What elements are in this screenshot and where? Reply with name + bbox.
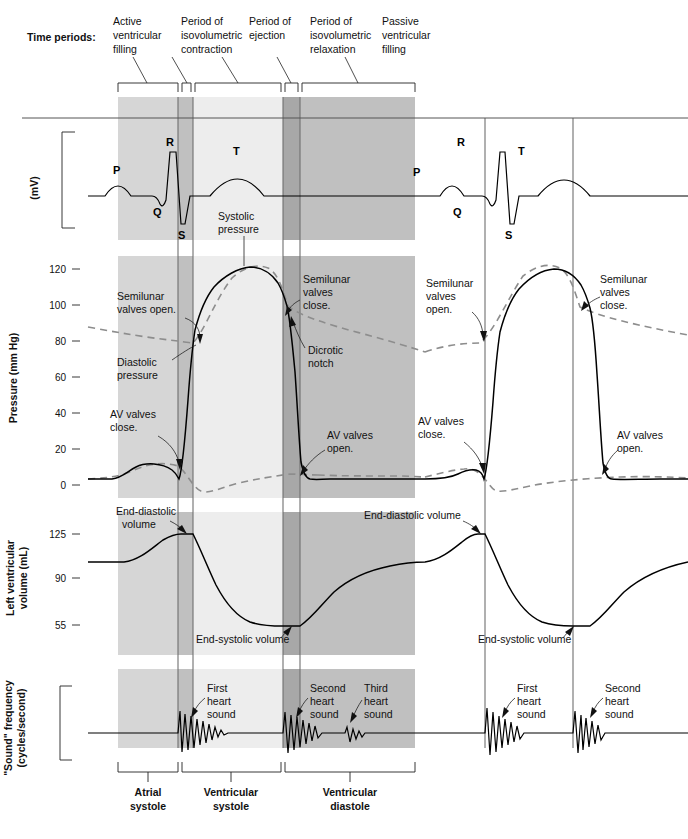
esv2-line0: End-systolic volume	[478, 633, 572, 645]
s2a-line0: Second	[310, 682, 346, 694]
annotation-semilunar-open-2: Semilunar valves open.	[426, 277, 487, 342]
diast-line1: pressure	[117, 369, 158, 381]
ecg-label-r1: R	[166, 136, 174, 148]
volume-tick-90: 90	[55, 573, 67, 584]
ecg-label-s1: S	[178, 229, 185, 241]
tp1-line1: isovolumetric	[181, 29, 242, 41]
slo2-line0: Semilunar	[426, 277, 474, 289]
volume-axis-label-line0: Left ventricularvolume (mL)	[4, 540, 29, 616]
slc2-line2: close.	[600, 299, 627, 311]
ecg-label-p2: P	[413, 166, 420, 178]
volume-ticks: 125 90 55	[49, 529, 80, 631]
ecg-axis-bracket	[62, 132, 75, 228]
sound-axis-bracket	[60, 686, 72, 760]
tp3-line1: isovolumetric	[310, 29, 371, 41]
ecg-label-t2: T	[518, 145, 525, 157]
annotation-s1-b: First heart sound	[502, 682, 546, 720]
s2b-line0: Second	[605, 682, 641, 694]
tp2-line1: ejection	[249, 29, 285, 41]
volume-tick-125: 125	[49, 529, 66, 540]
phase-bracket-label-0: Atrial systole	[130, 786, 166, 812]
pressure-tick-120: 120	[49, 264, 66, 275]
s3a-line1: heart	[364, 695, 388, 707]
time-period-label-3: Period of isovolumetric relaxation	[310, 15, 371, 55]
annotation-av-open-2: AV valves open.	[602, 429, 663, 475]
annotation-esv-2: End-systolic volume	[478, 626, 574, 645]
pressure-ticks: 120 100 80 60 40 20 0	[49, 264, 80, 491]
ecg-axis-label: (mV)	[28, 176, 40, 199]
s2a-line1: heart	[310, 695, 334, 707]
dicrotic-line1: notch	[308, 357, 334, 369]
edv2-line0: End-diastolic volume	[364, 509, 461, 521]
phase-bands	[110, 97, 425, 748]
systolic-pressure-line0: Systolic	[218, 210, 254, 222]
slc1-line2: close.	[303, 299, 330, 311]
tp0-line2: filling	[113, 43, 137, 55]
ecg-label-r2: R	[457, 136, 465, 148]
time-period-label-0: Active ventricular filling	[113, 15, 162, 55]
pressure-tick-0: 0	[60, 480, 66, 491]
s1b-line1: heart	[517, 695, 541, 707]
s1b-line2: sound	[517, 708, 546, 720]
tp1-line0: Period of	[181, 15, 223, 27]
time-periods-section: Time periods: Active ventricular filling…	[27, 15, 431, 92]
wiggers-diagram: Time periods: Active ventricular filling…	[0, 0, 688, 839]
tp2-line0: Period of	[249, 15, 291, 27]
tp4-line2: filling	[382, 43, 406, 55]
slc1-line0: Semilunar	[303, 273, 351, 285]
phase-bracket-label-1: Ventricular systole	[204, 786, 258, 812]
annotation-s2-b: Second heart sound	[590, 682, 641, 720]
slc2-line1: valves	[600, 286, 630, 298]
figure-svg: Time periods: Active ventricular filling…	[0, 0, 688, 839]
slc1-line1: valves	[303, 286, 333, 298]
atrial-pressure-dashed-2	[425, 469, 688, 491]
tp0-line0: Active	[113, 15, 142, 27]
tp4-line0: Passive	[382, 15, 419, 27]
annotation-semilunar-close-2: Semilunar valves close.	[581, 273, 648, 311]
phase-brackets: Atrial systole Ventricular systole Ventr…	[118, 762, 415, 812]
pb0-line0: Atrial	[135, 786, 162, 798]
time-period-label-2: Period of ejection	[249, 15, 291, 41]
avo1-line1: open.	[327, 442, 353, 454]
avc2-line1: close.	[418, 428, 445, 440]
pb0-line1: systole	[130, 800, 166, 812]
pressure-tick-40: 40	[55, 408, 67, 419]
s1a-line1: heart	[207, 695, 231, 707]
pressure-tick-100: 100	[49, 300, 66, 311]
time-period-label-1: Period of isovolumetric contraction	[181, 15, 242, 55]
avo1-line0: AV valves	[327, 429, 373, 441]
sound-axis-label: "Sound" frequency(cycles/second)	[2, 680, 27, 776]
avo2-line1: open.	[617, 442, 643, 454]
s3a-line0: Third	[364, 682, 388, 694]
esv1-line0: End-systolic volume	[196, 633, 290, 645]
edv1-line0: End-diastolic	[116, 505, 176, 517]
pb2-line0: Ventricular	[323, 786, 377, 798]
ecg-label-t1: T	[233, 145, 240, 157]
ecg-label-p1: P	[113, 164, 120, 176]
time-periods-label: Time periods:	[27, 31, 96, 43]
s1a-line2: sound	[207, 708, 236, 720]
pressure-tick-80: 80	[55, 336, 67, 347]
edv1-line1: volume	[122, 518, 156, 530]
avo2-line0: AV valves	[617, 429, 663, 441]
sl-open1-line1: valves open.	[117, 303, 176, 315]
ecg-label-q2: Q	[453, 206, 462, 218]
pressure-tick-20: 20	[55, 444, 67, 455]
pressure-axis-label: Pressure (mm Hg)	[7, 333, 19, 423]
pb1-line1: systole	[213, 800, 249, 812]
pressure-tick-60: 60	[55, 372, 67, 383]
s2a-line2: sound	[310, 708, 339, 720]
tp3-line2: relaxation	[310, 43, 356, 55]
s2b-line2: sound	[605, 708, 634, 720]
avc1-line0: AV valves	[110, 408, 156, 420]
ecg-label-q1: Q	[153, 206, 162, 218]
sl-open1-line0: Semilunar	[117, 290, 165, 302]
annotation-av-close-2: AV valves close.	[418, 415, 486, 474]
pb2-line1: diastole	[330, 800, 370, 812]
avc1-line1: close.	[110, 421, 137, 433]
tp0-line1: ventricular	[113, 29, 162, 41]
s1a-line0: First	[207, 682, 227, 694]
s3a-line2: sound	[364, 708, 393, 720]
avc2-line0: AV valves	[418, 415, 464, 427]
diast-line0: Diastolic	[117, 356, 157, 368]
